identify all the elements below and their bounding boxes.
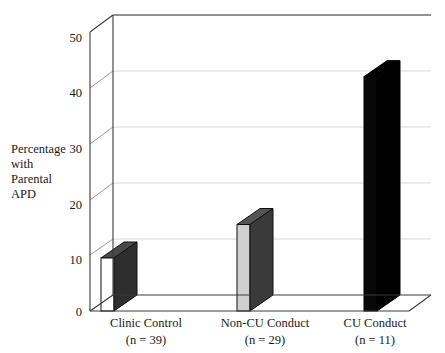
bar-front-face bbox=[364, 77, 377, 311]
ytick-label-40: 40 bbox=[70, 86, 83, 100]
bar-side-face bbox=[377, 61, 400, 311]
x-axis-sublabel-cu-conduct: (n = 11) bbox=[355, 333, 395, 347]
x-axis-sublabel-clinic-control: (n = 39) bbox=[126, 333, 166, 347]
bar-front-face bbox=[237, 225, 250, 311]
x-axis-label-cu-conduct: CU Conduct bbox=[344, 316, 407, 330]
x-axis-label-clinic-control: Clinic Control bbox=[110, 316, 182, 330]
y-axis-title: Percentage with Parental APD bbox=[11, 142, 66, 201]
ytick-label-20: 20 bbox=[70, 198, 83, 212]
bar-chart-3d: 50 40 30 20 10 0 Percentage with Parenta… bbox=[0, 0, 445, 353]
y-axis-title-line-4: APD bbox=[11, 187, 36, 201]
ytick-label-30: 30 bbox=[70, 142, 83, 156]
bar-non-cu-conduct[interactable] bbox=[237, 209, 273, 311]
ytick-label-10: 10 bbox=[70, 253, 83, 267]
y-axis-tick-labels: 50 40 30 20 10 0 bbox=[70, 31, 83, 319]
y-axis-title-line-2: with bbox=[11, 157, 34, 171]
x-axis-sublabel-non-cu-conduct: (n = 29) bbox=[245, 333, 285, 347]
y-axis-title-line-3: Parental bbox=[11, 172, 52, 186]
y-axis-title-line-1: Percentage bbox=[11, 142, 66, 156]
ytick-label-0: 0 bbox=[76, 305, 82, 319]
bar-cu-conduct[interactable] bbox=[364, 61, 400, 311]
x-axis-category-labels: Clinic Control (n = 39) Non-CU Conduct (… bbox=[110, 316, 407, 347]
bar-front-face bbox=[101, 258, 114, 311]
bar-side-face bbox=[250, 209, 273, 311]
ytick-label-50: 50 bbox=[70, 31, 83, 45]
chart-container: 50 40 30 20 10 0 Percentage with Parenta… bbox=[0, 0, 445, 353]
x-axis-label-non-cu-conduct: Non-CU Conduct bbox=[221, 316, 310, 330]
